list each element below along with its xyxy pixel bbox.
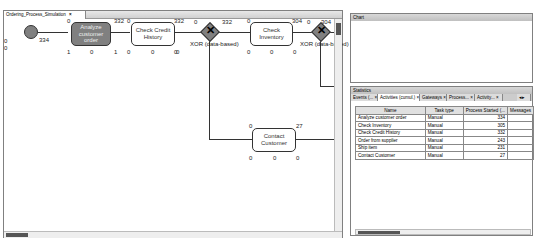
table-row[interactable]: Ship itemManual231 (356, 144, 534, 152)
cell: 332 (463, 129, 507, 137)
table-row[interactable]: Check Credit HistoryManual332 (356, 129, 534, 137)
task-label: Check Inventory (251, 27, 292, 40)
gateway-label: XOR (data-based) (190, 41, 239, 47)
process-editor: Ordering_Process_Simulation × 0 0 334 0 … (3, 10, 343, 238)
column-header[interactable]: Name (356, 107, 426, 115)
cell: Manual (425, 152, 463, 160)
flow-line (320, 86, 334, 87)
gateway-count: 0 (307, 19, 310, 25)
tab-activity[interactable]: Activity... × (475, 94, 503, 101)
task-count: 0 (151, 49, 154, 55)
cell: Manual (425, 122, 463, 130)
task-count: 0 (67, 18, 70, 24)
chart-title: Chart (353, 15, 364, 20)
chart-panel-header: Chart (351, 14, 532, 21)
column-header[interactable]: Process Started (... (463, 107, 507, 115)
flow-line (38, 32, 68, 33)
table-row[interactable]: Order from supplierManual243 (356, 137, 534, 145)
cell: 243 (463, 137, 507, 145)
cell: 27 (463, 152, 507, 160)
horizontal-scrollbar[interactable] (4, 231, 342, 238)
task-count: 0 (270, 49, 273, 55)
cell: Manual (425, 137, 463, 145)
task-count: 332 (174, 18, 184, 24)
tab-label: Events (... (353, 95, 373, 100)
statistics-header: Statistics (351, 87, 532, 94)
gateway-count: 0 (176, 49, 179, 55)
cell (508, 144, 534, 152)
task-count: 1 (114, 49, 117, 55)
tab-gateways[interactable]: Gateways × (420, 94, 447, 101)
task-check-credit-history[interactable]: Check Credit History (131, 22, 175, 46)
gateway-count: 332 (222, 19, 232, 25)
horizontal-scrollbar[interactable] (355, 229, 531, 235)
activities-table: Name Task type Process Started (... Mess… (355, 106, 534, 160)
start-event[interactable] (24, 25, 38, 39)
statistics-title: Statistics (353, 88, 371, 93)
cell (508, 137, 534, 145)
cell: 334 (463, 114, 507, 122)
task-count: 0 (296, 155, 299, 161)
task-label: Analyze customer order (72, 24, 110, 44)
table-row[interactable]: Check InventoryManual305 (356, 122, 534, 130)
start-count-bottom: 0 (4, 45, 7, 51)
chart-panel: Chart (350, 13, 533, 83)
cell: 305 (463, 122, 507, 130)
cell: Analyze customer order (356, 114, 426, 122)
cell: Contact Customer (356, 152, 426, 160)
close-icon[interactable]: × (69, 12, 72, 17)
vertical-scrollbar[interactable] (334, 19, 342, 231)
scroll-thumb[interactable] (6, 233, 28, 237)
task-count: 332 (114, 18, 124, 24)
cell (508, 114, 534, 122)
cell (508, 152, 534, 160)
cell: 231 (463, 144, 507, 152)
tab-label: Activity... (477, 95, 495, 100)
task-count: 0 (249, 123, 252, 129)
task-label: Check Credit History (132, 27, 174, 40)
tab-label: Activities (cumul.) (380, 95, 415, 100)
task-count: 0 (90, 49, 93, 55)
tab-activities[interactable]: Activities (cumul.) × (378, 94, 420, 101)
task-count: 304 (292, 18, 302, 24)
column-header[interactable]: Task type (425, 107, 463, 115)
task-analyze-customer-order[interactable]: Analyze customer order (71, 22, 111, 46)
tab-label: Process... (449, 95, 469, 100)
tab-events[interactable]: Events (... × (351, 94, 378, 101)
scroll-thumb[interactable] (358, 231, 400, 234)
tab-process[interactable]: Process... × (447, 94, 475, 101)
tab-label: Ordering_Process_Simulation (6, 12, 66, 17)
flow-line (209, 41, 210, 139)
task-contact-customer[interactable]: Contact Customer (252, 128, 296, 152)
flow-line (296, 139, 334, 140)
flow-line (174, 32, 202, 33)
cell: Check Credit History (356, 129, 426, 137)
start-count-top: 0 (4, 38, 7, 44)
task-count: 0 (127, 49, 130, 55)
task-count: 0 (247, 49, 250, 55)
table-row[interactable]: Contact CustomerManual27 (356, 152, 534, 160)
cell: Manual (425, 144, 463, 152)
flow-line (217, 32, 250, 33)
tab-scroll-arrows[interactable]: ◂▸ (517, 94, 531, 101)
task-count: 0 (249, 155, 252, 161)
task-label: Contact Customer (253, 133, 295, 146)
column-header[interactable]: Messages (508, 107, 534, 115)
diagram-canvas[interactable]: 0 0 334 0 332 Analyze customer order 1 0… (4, 19, 334, 231)
flow-line (320, 41, 321, 86)
task-check-inventory[interactable]: Check Inventory (250, 22, 293, 46)
statistics-panel: Statistics Events (... × Activities (cum… (350, 86, 533, 236)
table-header: Name Task type Process Started (... Mess… (356, 107, 534, 115)
x-icon: ✕ (200, 24, 220, 37)
cell (508, 129, 534, 137)
task-count: 0 (273, 155, 276, 161)
cell: Ship item (356, 144, 426, 152)
table-row[interactable]: Analyze customer orderManual334 (356, 114, 534, 122)
task-count: 0 (247, 18, 250, 24)
task-count: 27 (296, 123, 303, 129)
scroll-thumb[interactable] (336, 23, 341, 35)
cell: Check Inventory (356, 122, 426, 130)
task-count: 0 (293, 49, 296, 55)
task-count: 0 (127, 18, 130, 24)
tab-ordering-process-simulation[interactable]: Ordering_Process_Simulation × (4, 11, 86, 19)
